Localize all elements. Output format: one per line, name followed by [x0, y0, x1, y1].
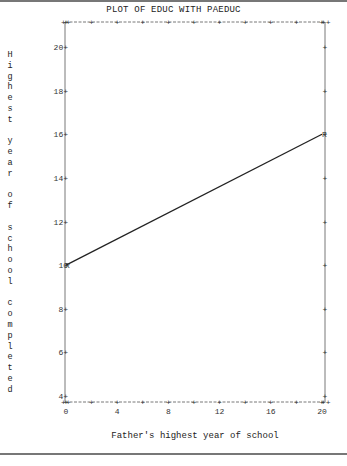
y-tick-label: 12+ — [54, 218, 69, 227]
svg-text:+: + — [268, 18, 273, 27]
svg-text:+: + — [323, 218, 328, 227]
y-tick-label: 6+ — [58, 348, 68, 357]
y-tick-label: 18+ — [54, 87, 69, 96]
y-tick-label: 4+ — [58, 392, 68, 401]
svg-text:+: + — [323, 392, 328, 401]
svg-text:++: ++ — [321, 18, 331, 27]
x-tick-label: 12 — [215, 407, 225, 416]
bottom-rule — [0, 453, 347, 455]
x-tick-label: 4 — [115, 407, 120, 416]
svg-text:+: + — [243, 18, 248, 27]
svg-text:+: + — [192, 398, 197, 407]
svg-text:+: + — [140, 398, 145, 407]
svg-text:+: + — [268, 398, 273, 407]
svg-text:++: ++ — [61, 18, 71, 27]
svg-text:+: + — [294, 398, 299, 407]
regression-marker: R — [322, 130, 327, 139]
svg-text:+: + — [217, 18, 222, 27]
y-tick-label: 8+ — [58, 305, 68, 314]
svg-text:+: + — [166, 398, 171, 407]
svg-text:+: + — [323, 261, 328, 270]
svg-text:+: + — [115, 18, 120, 27]
svg-text:+: + — [323, 87, 328, 96]
svg-text:+: + — [166, 18, 171, 27]
svg-text:+: + — [323, 174, 328, 183]
y-tick-label: 16+ — [54, 130, 69, 139]
plot-area: ++++++++++++++++++++++++++++++0481216204… — [0, 0, 347, 466]
svg-text:+: + — [89, 398, 94, 407]
svg-text:+: + — [243, 398, 248, 407]
svg-text:+: + — [140, 18, 145, 27]
y-tick-label: 14+ — [54, 174, 69, 183]
svg-text:+: + — [323, 348, 328, 357]
x-tick-label: 8 — [166, 407, 171, 416]
x-axis-label: Father's highest year of school — [60, 431, 330, 441]
x-tick-label: 16 — [266, 407, 276, 416]
svg-text:+: + — [217, 398, 222, 407]
x-tick-label: 20 — [317, 407, 327, 416]
svg-text:+: + — [323, 43, 328, 52]
y-tick-label: 20+ — [54, 43, 69, 52]
regression-line — [66, 134, 322, 265]
svg-text:+: + — [323, 305, 328, 314]
x-tick-label: 0 — [64, 407, 69, 416]
regression-marker: R — [65, 261, 70, 270]
svg-text:+: + — [89, 18, 94, 27]
svg-text:+: + — [115, 398, 120, 407]
svg-text:+: + — [294, 18, 299, 27]
svg-text:+: + — [192, 18, 197, 27]
